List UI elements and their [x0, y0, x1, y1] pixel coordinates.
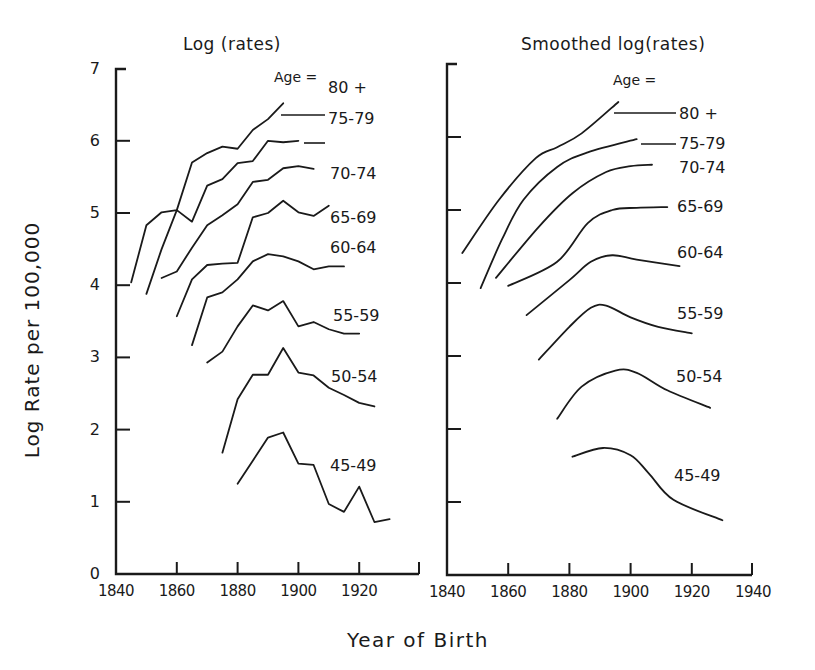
series-50-54-line: [222, 348, 374, 453]
series-label: 80 +: [679, 104, 718, 123]
series-label: 75-79: [328, 109, 375, 128]
series-label: 80 +: [328, 78, 367, 97]
x-tick-label: 1920: [334, 582, 384, 600]
left-panel-title: Log (rates): [183, 34, 281, 54]
series-label: 75-79: [679, 134, 726, 153]
series-label: 65-69: [677, 197, 724, 216]
x-tick-label: 1880: [544, 583, 594, 601]
series-60-64-line: [192, 254, 344, 345]
x-tick-label: 1840: [91, 582, 141, 600]
y-tick-label: 1: [80, 492, 100, 511]
y-tick-label: 2: [80, 420, 100, 439]
series-label: 45-49: [674, 466, 721, 485]
x-axis-label: Year of Birth: [347, 628, 489, 652]
series-75-79-line: [481, 139, 637, 288]
y-tick-label: 7: [80, 59, 100, 78]
series-label: 45-49: [330, 456, 377, 475]
series-label: 70-74: [330, 164, 377, 183]
series-70-74-line: [496, 165, 652, 278]
series-65-69-line: [508, 207, 667, 286]
series-label: 55-59: [333, 306, 380, 325]
series-label: 60-64: [330, 238, 377, 257]
plot-canvas: [0, 0, 815, 670]
right-age-heading: Age =: [613, 72, 656, 88]
x-tick-label: 1920: [667, 583, 717, 601]
series-45-49-line: [238, 432, 390, 522]
x-tick-label: 1940: [728, 583, 778, 601]
x-tick-label: 1860: [483, 583, 533, 601]
left-age-heading: Age =: [274, 69, 317, 85]
series-80--line: [131, 103, 283, 282]
series-label: 50-54: [331, 367, 378, 386]
y-axis-label: Log Rate per 100,000: [20, 222, 44, 459]
series-60-64-line: [527, 255, 680, 315]
x-tick-label: 1860: [152, 582, 202, 600]
series-65-69-line: [177, 201, 329, 317]
y-tick-label: 0: [80, 564, 100, 583]
series-75-79-line: [146, 141, 298, 294]
series-label: 65-69: [330, 208, 377, 227]
x-tick-label: 1840: [422, 583, 472, 601]
y-tick-label: 5: [80, 203, 100, 222]
right-panel-title: Smoothed log(rates): [521, 34, 705, 54]
y-tick-label: 4: [80, 275, 100, 294]
figure: Log (rates) Smoothed log(rates) Age = Ag…: [0, 0, 815, 670]
x-tick-label: 1900: [273, 582, 323, 600]
series-label: 60-64: [677, 243, 724, 262]
x-tick-label: 1900: [606, 583, 656, 601]
series-label: 55-59: [677, 304, 724, 323]
y-tick-label: 3: [80, 347, 100, 366]
series-55-59-line: [539, 305, 692, 360]
series-label: 70-74: [679, 158, 726, 177]
series-label: 50-54: [676, 367, 723, 386]
y-tick-label: 6: [80, 131, 100, 150]
x-tick-label: 1880: [213, 582, 263, 600]
